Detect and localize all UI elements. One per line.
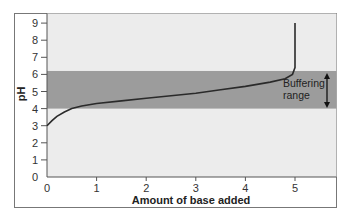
y-tick-label: 9	[32, 17, 38, 29]
x-axis-title: Amount of base added	[132, 194, 251, 206]
y-tick-label: 3	[32, 120, 38, 132]
y-tick-label: 2	[32, 137, 38, 149]
x-tick-label: 3	[193, 182, 199, 194]
y-tick-label: 4	[32, 103, 38, 115]
y-tick-label: 1	[32, 154, 38, 166]
y-tick-label: 6	[32, 68, 38, 80]
y-tick-label: 7	[32, 51, 38, 63]
x-tick-label: 1	[94, 182, 100, 194]
buffering-label-line2: range	[283, 89, 310, 101]
x-tick-label: 2	[143, 182, 149, 194]
buffering-label-line1: Buffering	[283, 77, 325, 89]
y-tick-label: 8	[32, 34, 38, 46]
buffer-titration-chart: 0123456789 012345 Buffering range Amount…	[0, 0, 353, 218]
y-tick-label: 0	[32, 171, 38, 183]
x-tick-label: 4	[242, 182, 248, 194]
y-axis-title: pH	[15, 87, 27, 102]
y-tick-label: 5	[32, 86, 38, 98]
x-tick-label: 5	[292, 182, 298, 194]
x-tick-label: 0	[44, 182, 50, 194]
